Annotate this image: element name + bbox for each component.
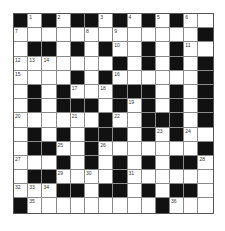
entry-cell[interactable] (28, 28, 42, 42)
entry-cell[interactable] (85, 113, 99, 127)
entry-cell[interactable]: 33 (28, 184, 42, 198)
entry-cell[interactable] (14, 170, 28, 184)
entry-cell[interactable] (57, 71, 71, 85)
entry-cell[interactable] (57, 42, 71, 56)
entry-cell[interactable] (156, 170, 170, 184)
entry-cell[interactable]: 3 (99, 14, 113, 28)
entry-cell[interactable]: 19 (128, 99, 142, 113)
entry-cell[interactable] (113, 198, 127, 212)
entry-cell[interactable] (142, 28, 156, 42)
entry-cell[interactable] (99, 28, 113, 42)
entry-cell[interactable] (142, 71, 156, 85)
entry-cell[interactable] (99, 156, 113, 170)
entry-cell[interactable] (198, 14, 212, 28)
entry-cell[interactable]: 29 (57, 170, 71, 184)
entry-cell[interactable] (184, 198, 198, 212)
entry-cell[interactable] (170, 170, 184, 184)
entry-cell[interactable] (128, 71, 142, 85)
entry-cell[interactable] (142, 142, 156, 156)
entry-cell[interactable] (128, 198, 142, 212)
entry-cell[interactable] (99, 198, 113, 212)
entry-cell[interactable] (42, 28, 56, 42)
entry-cell[interactable] (71, 142, 85, 156)
entry-cell[interactable] (42, 198, 56, 212)
entry-cell[interactable]: 30 (85, 170, 99, 184)
entry-cell[interactable] (198, 184, 212, 198)
entry-cell[interactable] (128, 42, 142, 56)
entry-cell[interactable] (99, 170, 113, 184)
entry-cell[interactable] (28, 71, 42, 85)
entry-cell[interactable] (42, 156, 56, 170)
entry-cell[interactable] (184, 71, 198, 85)
entry-cell[interactable] (170, 28, 184, 42)
entry-cell[interactable] (198, 42, 212, 56)
entry-cell[interactable]: 6 (184, 14, 198, 28)
entry-cell[interactable] (156, 71, 170, 85)
entry-cell[interactable]: 24 (184, 128, 198, 142)
entry-cell[interactable]: 21 (71, 113, 85, 127)
entry-cell[interactable]: 25 (57, 142, 71, 156)
entry-cell[interactable]: 15 (14, 71, 28, 85)
entry-cell[interactable] (14, 42, 28, 56)
entry-cell[interactable] (128, 142, 142, 156)
entry-cell[interactable] (14, 85, 28, 99)
entry-cell[interactable]: 23 (156, 128, 170, 142)
entry-cell[interactable] (42, 99, 56, 113)
entry-cell[interactable] (184, 28, 198, 42)
entry-cell[interactable] (71, 28, 85, 42)
entry-cell[interactable] (85, 85, 99, 99)
entry-cell[interactable] (42, 113, 56, 127)
entry-cell[interactable]: 8 (85, 28, 99, 42)
entry-cell[interactable]: 11 (184, 42, 198, 56)
entry-cell[interactable] (170, 71, 184, 85)
entry-cell[interactable] (42, 71, 56, 85)
entry-cell[interactable] (71, 156, 85, 170)
entry-cell[interactable] (198, 170, 212, 184)
entry-cell[interactable] (85, 198, 99, 212)
entry-cell[interactable]: 28 (198, 156, 212, 170)
entry-cell[interactable] (128, 28, 142, 42)
entry-cell[interactable]: 16 (113, 71, 127, 85)
entry-cell[interactable] (198, 198, 212, 212)
entry-cell[interactable] (156, 99, 170, 113)
entry-cell[interactable] (85, 71, 99, 85)
entry-cell[interactable] (71, 57, 85, 71)
entry-cell[interactable] (85, 42, 99, 56)
entry-cell[interactable] (156, 85, 170, 99)
entry-cell[interactable]: 26 (99, 142, 113, 156)
entry-cell[interactable]: 5 (156, 14, 170, 28)
entry-cell[interactable]: 9 (113, 28, 127, 42)
entry-cell[interactable]: 10 (113, 42, 127, 56)
entry-cell[interactable]: 13 (28, 57, 42, 71)
entry-cell[interactable]: 27 (14, 156, 28, 170)
entry-cell[interactable]: 31 (128, 170, 142, 184)
entry-cell[interactable]: 22 (113, 113, 127, 127)
entry-cell[interactable] (156, 142, 170, 156)
entry-cell[interactable] (184, 113, 198, 127)
entry-cell[interactable]: 1 (28, 14, 42, 28)
entry-cell[interactable] (85, 57, 99, 71)
entry-cell[interactable] (57, 57, 71, 71)
entry-cell[interactable]: 7 (14, 28, 28, 42)
entry-cell[interactable]: 18 (99, 85, 113, 99)
entry-cell[interactable] (156, 42, 170, 56)
entry-cell[interactable] (42, 85, 56, 99)
entry-cell[interactable] (14, 128, 28, 142)
entry-cell[interactable] (142, 170, 156, 184)
entry-cell[interactable] (57, 113, 71, 127)
entry-cell[interactable] (184, 57, 198, 71)
entry-cell[interactable] (156, 156, 170, 170)
entry-cell[interactable]: 35 (28, 198, 42, 212)
entry-cell[interactable] (99, 57, 113, 71)
entry-cell[interactable]: 14 (42, 57, 56, 71)
entry-cell[interactable] (128, 57, 142, 71)
entry-cell[interactable] (170, 142, 184, 156)
entry-cell[interactable] (14, 142, 28, 156)
entry-cell[interactable] (128, 156, 142, 170)
entry-cell[interactable] (128, 184, 142, 198)
entry-cell[interactable]: 34 (42, 184, 56, 198)
entry-cell[interactable] (57, 198, 71, 212)
entry-cell[interactable] (28, 156, 42, 170)
entry-cell[interactable] (142, 198, 156, 212)
entry-cell[interactable] (99, 99, 113, 113)
